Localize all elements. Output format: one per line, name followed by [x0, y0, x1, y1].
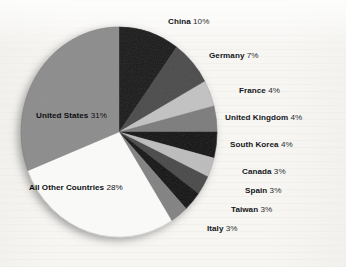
slice-label-united-states-value: 31% [91, 111, 107, 120]
slice-label-taiwan-value: 3% [260, 205, 272, 214]
slice-label-italy-value: 3% [226, 224, 238, 233]
slice-label-united-kingdom: United Kingdom 4% [225, 113, 302, 123]
slice-label-all-other-countries-name: All Other Countries [29, 183, 104, 192]
slice-label-canada-name: Canada [242, 167, 272, 176]
slice-label-canada-value: 3% [274, 167, 286, 176]
slice-label-united-kingdom-value: 4% [291, 113, 303, 122]
slice-label-china-name: China [168, 17, 191, 26]
slice-label-china-value: 10% [193, 17, 209, 26]
slice-label-united-states-name: United States [36, 111, 88, 120]
slice-label-italy: Italy 3% [207, 224, 238, 234]
slice-label-canada: Canada 3% [242, 167, 286, 177]
pie-chart-svg [0, 0, 346, 267]
slice-label-spain-value: 3% [270, 186, 282, 195]
slice-label-germany: Germany 7% [209, 51, 259, 61]
slice-label-taiwan-name: Taiwan [231, 205, 258, 214]
slice-label-united-states: United States 31% [36, 111, 107, 121]
slice-label-south-korea-value: 4% [281, 140, 293, 149]
pie-chart: China 10% Germany 7% France 4% United Ki… [0, 0, 346, 267]
slice-label-france-value: 4% [268, 86, 280, 95]
slice-label-france: France 4% [239, 86, 280, 96]
slice-label-united-kingdom-name: United Kingdom [225, 113, 288, 122]
slice-label-spain-name: Spain [245, 186, 267, 195]
slice-label-taiwan: Taiwan 3% [231, 205, 272, 215]
slice-label-germany-value: 7% [247, 51, 259, 60]
slice-label-germany-name: Germany [209, 51, 244, 60]
slice-label-all-other-countries: All Other Countries 28% [29, 183, 123, 193]
slice-label-south-korea-name: South Korea [230, 140, 279, 149]
slice-label-spain: Spain 3% [245, 186, 281, 196]
slice-label-italy-name: Italy [207, 224, 223, 233]
slice-label-all-other-countries-value: 28% [106, 183, 122, 192]
slice-label-south-korea: South Korea 4% [230, 140, 293, 150]
pie-grain-layer [21, 27, 217, 237]
slice-label-france-name: France [239, 86, 266, 95]
slice-label-china: China 10% [168, 17, 209, 27]
